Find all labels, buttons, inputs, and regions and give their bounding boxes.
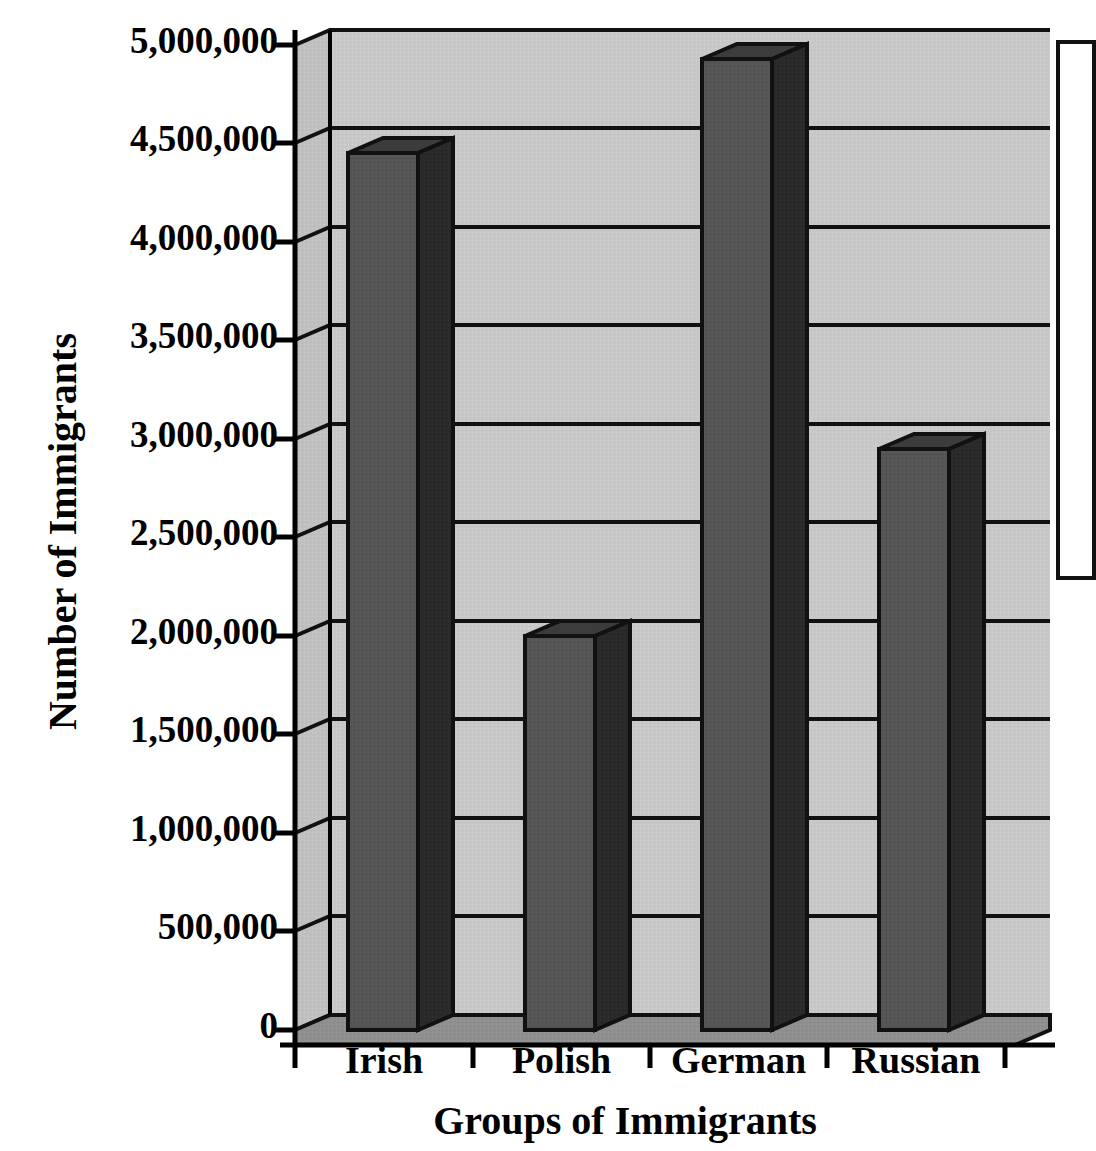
x-axis-title: Groups of Immigrants [230,1097,1020,1144]
y-tick-label: 4,500,000 [60,120,278,157]
y-tick-label: 2,000,000 [60,613,278,650]
x-axis-tick-labels: Irish Polish German Russian [0,1041,1068,1101]
y-tick-label: 2,500,000 [60,514,278,551]
y-tick-label: 3,500,000 [60,317,278,354]
x-tick-label-irish: Irish [295,1041,473,1079]
y-tick-label: 0 [60,1007,278,1044]
x-tick-label-polish: Polish [473,1041,650,1079]
bar-polish[interactable] [525,621,630,1030]
y-axis-tick-labels: 5,000,000 4,500,000 4,000,000 3,500,000 … [60,0,278,1151]
y-tick-label: 500,000 [60,908,278,945]
y-axis-title: Number of Immigrants [39,152,86,912]
y-tick-label: 3,000,000 [60,416,278,453]
bar-irish[interactable] [348,138,453,1030]
y-tick-label: 1,000,000 [60,810,278,847]
bar-german[interactable] [702,44,807,1030]
x-tick-label-german: German [650,1041,827,1079]
y-tick-label: 1,500,000 [60,711,278,748]
y-tick-label: 5,000,000 [60,22,278,59]
bar-russian[interactable] [879,434,984,1030]
y-tick-label: 4,000,000 [60,219,278,256]
legend[interactable] [1056,40,1096,580]
x-tick-label-russian: Russian [827,1041,1005,1079]
